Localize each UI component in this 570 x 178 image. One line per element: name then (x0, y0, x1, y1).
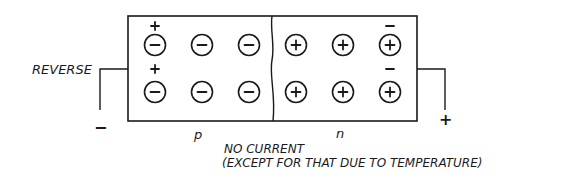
caption-line-1: NO CURRENT (224, 142, 306, 156)
reverse-label: REVERSE (32, 62, 93, 77)
positive-ion-icon (286, 35, 307, 56)
positive-ion-icon (333, 82, 354, 103)
pn-junction-diagram: REVERSE − + p n NO CURRENT (EXCEPT FOR T… (0, 0, 570, 178)
hole-carrier-icon (151, 22, 159, 30)
negative-ion-icon (239, 35, 260, 56)
p-region-label: p (193, 127, 202, 142)
positive-ion-icon (380, 35, 401, 56)
negative-ion-icon (192, 82, 213, 103)
caption-line-2: (EXCEPT FOR THAT DUE TO TEMPERATURE) (222, 156, 482, 170)
negative-terminal-label: − (94, 118, 107, 137)
negative-ion-icon (239, 82, 260, 103)
left-wire (100, 69, 128, 110)
negative-ion-icon (192, 35, 213, 56)
right-wire (417, 69, 445, 110)
positive-terminal-label: + (439, 110, 452, 129)
positive-ion-icon (286, 82, 307, 103)
positive-ion-icon (333, 35, 354, 56)
junction-boundary (271, 16, 274, 121)
negative-ion-icon (145, 82, 166, 103)
n-region-label: n (336, 126, 344, 141)
negative-ion-icon (145, 35, 166, 56)
hole-carrier-icon (151, 65, 159, 73)
positive-ion-icon (380, 82, 401, 103)
